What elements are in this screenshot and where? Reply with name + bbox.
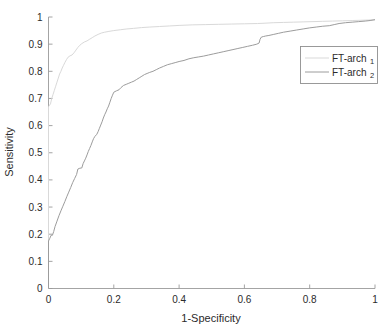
y-tick-label: 0.6: [29, 120, 43, 131]
legend-label-2: FT-arch: [332, 67, 366, 78]
x-tick-label: 1: [372, 294, 378, 305]
x-tick-label: 0.8: [303, 294, 317, 305]
x-tick-label: 0: [46, 294, 52, 305]
roc-chart-figure: 00.10.20.30.40.50.60.70.80.91 00.20.40.6…: [0, 0, 391, 334]
y-tick-label: 0.4: [29, 174, 43, 185]
x-tick-label: 0.2: [107, 294, 121, 305]
legend-label-1: FT-arch: [332, 53, 366, 64]
x-axis-title: 1-Specificity: [181, 312, 241, 324]
y-tick-label: 0: [37, 283, 43, 294]
y-tick-label: 0.8: [29, 66, 43, 77]
y-tick-label: 0.1: [29, 256, 43, 267]
legend-subscript-2: 2: [370, 71, 374, 80]
y-tick-label: 0.2: [29, 229, 43, 240]
legend-subscript-1: 1: [370, 57, 374, 66]
y-tick-label: 1: [37, 12, 43, 23]
x-tick-label: 0.6: [237, 294, 251, 305]
y-tick-label: 0.7: [29, 93, 43, 104]
y-tick-label: 0.9: [29, 39, 43, 50]
y-tick-label: 0.5: [29, 147, 43, 158]
chart-canvas: 00.10.20.30.40.50.60.70.80.91 00.20.40.6…: [0, 0, 391, 334]
x-axis-ticks: 00.20.40.60.81: [46, 285, 379, 305]
x-tick-label: 0.4: [172, 294, 186, 305]
y-tick-label: 0.3: [29, 202, 43, 213]
y-axis-title: Sensitivity: [3, 127, 15, 177]
